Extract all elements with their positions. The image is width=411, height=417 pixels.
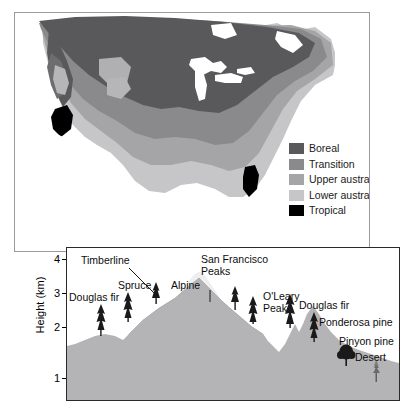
label-ponderosa-pine: Ponderosa pine: [319, 317, 393, 329]
label-douglas-fir-left: Douglas fir: [69, 292, 119, 304]
label-oleary-peak-line2: Peak: [263, 303, 287, 315]
y-tick-label-1: 1: [38, 372, 60, 384]
label-oleary-peak: O'Leary: [263, 291, 299, 303]
legend-item-tropical: Tropical: [289, 203, 370, 219]
map-legend: Boreal Transition Upper austral Lower au…: [289, 141, 370, 219]
elevation-profile-panel: Timberline San Francisco Peaks Spruce Al…: [66, 247, 400, 401]
legend-item-boreal: Boreal: [289, 141, 370, 157]
label-spruce: Spruce: [118, 280, 151, 292]
label-douglas-fir-right: Douglas fir: [299, 300, 349, 312]
legend-label-tropical: Tropical: [309, 205, 346, 216]
label-timberline: Timberline: [81, 255, 130, 267]
legend-label-transition: Transition: [309, 159, 355, 170]
y-axis-title: Height (km): [34, 259, 46, 351]
y-tick-label-4: 4: [38, 253, 60, 265]
legend-swatch-lower-austral: [289, 190, 304, 201]
label-alpine: Alpine: [171, 280, 200, 292]
label-san-francisco-peaks: San Francisco: [201, 254, 268, 266]
y-tick-label-2: 2: [38, 321, 60, 333]
label-pinyon-pine: Pinyon pine: [339, 336, 394, 348]
label-san-francisco-peaks-line2: Peaks: [201, 266, 230, 278]
legend-swatch-tropical: [289, 205, 304, 216]
life-zone-map-panel: Boreal Transition Upper austral Lower au…: [14, 12, 370, 252]
legend-label-upper-austral: Upper austral: [309, 174, 370, 185]
legend-item-lower-austral: Lower austral: [289, 188, 370, 204]
legend-label-boreal: Boreal: [309, 143, 339, 154]
legend-item-transition: Transition: [289, 157, 370, 173]
legend-item-upper-austral: Upper austral: [289, 172, 370, 188]
figure-root: Boreal Transition Upper austral Lower au…: [0, 0, 411, 417]
legend-label-lower-austral: Lower austral: [309, 190, 370, 201]
label-desert: Desert: [355, 352, 386, 364]
elevation-y-axis: Height (km) 4 3 2 1: [20, 247, 68, 401]
legend-swatch-boreal: [289, 143, 304, 154]
legend-swatch-transition: [289, 159, 304, 170]
y-tick-label-3: 3: [38, 287, 60, 299]
legend-swatch-upper-austral: [289, 174, 304, 185]
